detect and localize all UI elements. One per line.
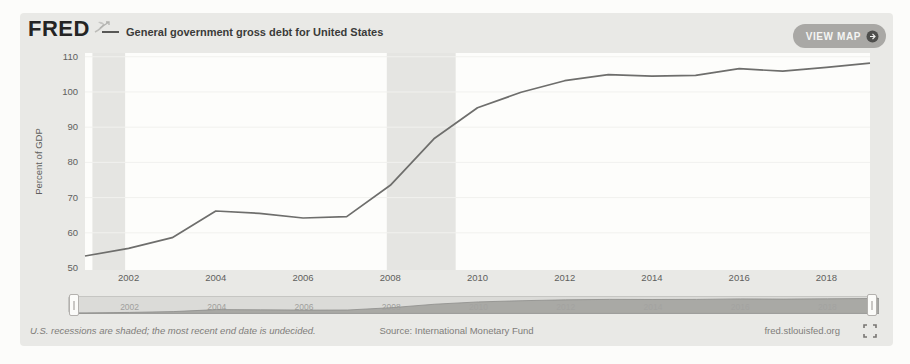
y-tick-label: 100 — [62, 86, 78, 97]
source-note: Source: International Monetary Fund — [20, 325, 893, 336]
series-title: General government gross debt for United… — [126, 26, 383, 38]
view-map-label: VIEW MAP — [806, 31, 861, 42]
series-legend: General government gross debt for United… — [102, 26, 383, 38]
y-axis-title: Percent of GDP — [33, 128, 44, 195]
x-tick-label: 2004 — [205, 272, 226, 283]
y-tick-label: 60 — [67, 227, 78, 238]
y-tick-label: 50 — [67, 262, 78, 273]
x-tick-label: 2014 — [641, 272, 662, 283]
fred-site-link[interactable]: fred.stlouisfed.org — [764, 325, 840, 336]
slider-year-label: 2002 — [120, 302, 139, 312]
fullscreen-icon[interactable] — [863, 324, 877, 338]
slider-handle-left[interactable] — [69, 294, 79, 316]
plot-area[interactable] — [85, 53, 870, 270]
series-line-swatch — [102, 31, 119, 33]
y-tick-label: 70 — [67, 192, 78, 203]
date-range-slider[interactable]: 200220042006200820102012201420162018 — [68, 296, 878, 313]
graph-footer: U.S. recessions are shaded; the most rec… — [20, 324, 893, 340]
fred-logo-text: FRED — [28, 18, 90, 40]
slider-mini-chart: 200220042006200820102012201420162018 — [69, 297, 879, 314]
slider-area-fill — [69, 299, 879, 315]
x-tick-label: 2010 — [467, 272, 488, 283]
recession-band — [387, 53, 456, 270]
x-tick-label: 2006 — [292, 272, 313, 283]
y-tick-label: 80 — [67, 156, 78, 167]
x-tick-label: 2002 — [118, 272, 139, 283]
globe-arrow-icon — [866, 30, 879, 43]
fred-graph-card: 5060708090100110Percent of GDP2002200420… — [20, 13, 893, 346]
recession-band — [92, 53, 125, 270]
fred-logo[interactable]: FRED — [28, 18, 111, 40]
x-tick-label: 2012 — [554, 272, 575, 283]
graph-header: FRED General government gross debt for U… — [20, 13, 893, 53]
page: 5060708090100110Percent of GDP2002200420… — [0, 0, 910, 364]
view-map-button[interactable]: VIEW MAP — [793, 24, 886, 48]
x-tick-label: 2016 — [729, 272, 750, 283]
y-tick-label: 90 — [67, 121, 78, 132]
x-tick-label: 2018 — [816, 272, 837, 283]
x-tick-label: 2008 — [380, 272, 401, 283]
main-chart[interactable]: 5060708090100110Percent of GDP2002200420… — [20, 13, 893, 293]
slider-handle-right[interactable] — [867, 294, 877, 316]
